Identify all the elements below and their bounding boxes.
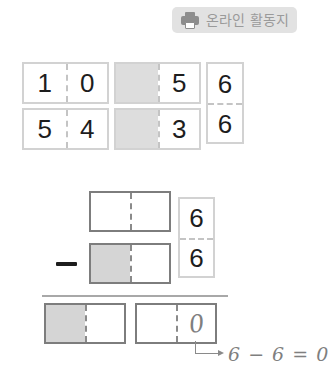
top-row2-box-b-right: 3 (158, 110, 200, 148)
top-row1-box-a: 1 0 (22, 62, 109, 104)
subtrahend-box-right (130, 245, 169, 282)
minuend-box (89, 191, 171, 232)
top-stacked-box: 6 6 (206, 62, 244, 144)
top-row1-box-b-right: 5 (158, 64, 200, 102)
answer-box-b: 0 (135, 303, 217, 344)
top-row1-box-a-left: 1 (24, 64, 66, 102)
top-row1-box-b: 5 (114, 62, 201, 104)
badge-bar: 온라인 활동지 (0, 0, 321, 42)
badge-label: 온라인 활동지 (206, 13, 289, 27)
answer-rule (42, 295, 228, 297)
answer-box-a-left (46, 305, 85, 342)
minuend-box-right (130, 193, 169, 230)
subtrahend-box-left (91, 245, 130, 282)
top-row1-box-a-right: 0 (66, 64, 108, 102)
annotation-text: 6 − 6 = 0 (228, 345, 329, 364)
annotation-leader-line (195, 341, 219, 354)
printer-icon (181, 12, 199, 29)
online-worksheet-badge[interactable]: 온라인 활동지 (172, 7, 297, 33)
top-row2-box-a: 5 4 (22, 108, 109, 150)
top-row2-box-b-left (116, 110, 158, 148)
bottom-stacked-box-top: 6 (180, 199, 213, 238)
answer-box-b-left (137, 305, 176, 342)
annotation-arrow-icon (218, 350, 224, 356)
top-row2-box-b: 3 (114, 108, 201, 150)
subtrahend-box (89, 243, 171, 284)
minus-operator (56, 262, 77, 266)
top-stacked-box-bottom: 6 (208, 103, 242, 142)
top-stacked-box-top: 6 (208, 64, 242, 103)
answer-box-a-right (85, 305, 124, 342)
handwritten-answer-digit: 0 (187, 311, 205, 337)
answer-box-b-right: 0 (176, 305, 215, 342)
answer-box-a (44, 303, 126, 344)
top-row1-box-b-left (116, 64, 158, 102)
bottom-stacked-box-bottom: 6 (180, 238, 213, 277)
top-row2-box-a-right: 4 (66, 110, 108, 148)
top-row2-box-a-left: 5 (24, 110, 66, 148)
minuend-box-left (91, 193, 130, 230)
bottom-stacked-box: 6 6 (178, 197, 215, 278)
